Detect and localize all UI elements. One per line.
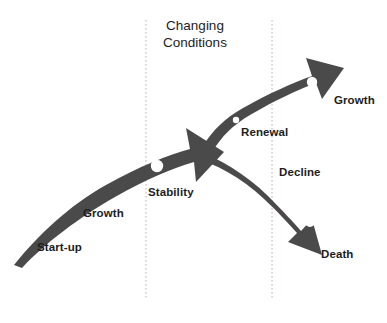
stage-label-growth-renewed: Growth	[334, 93, 375, 107]
diagram-title-line-1: Changing	[151, 18, 239, 35]
marker-death	[305, 217, 315, 227]
marker-stability	[151, 160, 163, 172]
stage-label-decline: Decline	[279, 165, 321, 179]
diagram-title: Changing Conditions	[151, 18, 239, 52]
stage-label-start-up: Start-up	[37, 240, 82, 254]
marker-growth-early	[91, 182, 99, 190]
stage-label-stability: Stability	[148, 185, 194, 199]
marker-renewal	[233, 117, 239, 123]
lifecycle-diagram: Changing Conditions Start-up Growth Stab…	[0, 0, 387, 323]
stage-label-death: Death	[321, 247, 353, 261]
stage-label-renewal: Renewal	[241, 125, 288, 139]
diagram-title-line-2: Conditions	[151, 35, 239, 52]
marker-decline	[260, 168, 268, 176]
stage-label-growth-early: Growth	[83, 206, 124, 220]
marker-growth-renewed	[307, 77, 317, 87]
marker-start-up	[42, 217, 48, 223]
